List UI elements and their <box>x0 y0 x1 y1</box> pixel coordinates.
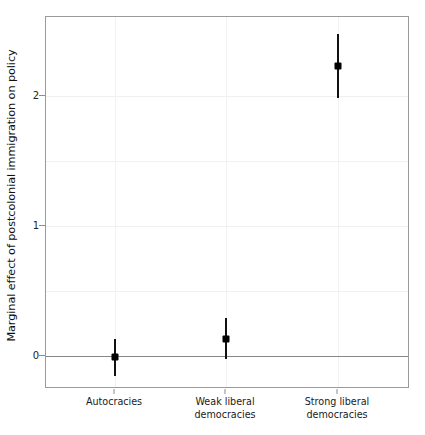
x-tick-label-strong-liberal-democracies: Strong liberal democracies <box>272 396 402 421</box>
y-axis-title-text: Marginal effect of postcolonial immigrat… <box>5 49 18 341</box>
y-tick-label-0: 0 <box>23 350 39 361</box>
x-tick-label-weak-liberal-democracies-line2: democracies <box>160 409 290 422</box>
x-tick-label-strong-liberal-democracies-line2: democracies <box>272 409 402 422</box>
point-autocracies <box>112 354 119 361</box>
zero-reference-line <box>46 356 408 357</box>
x-tick-label-weak-liberal-democracies-line1: Weak liberal <box>195 396 254 407</box>
chart-figure: Marginal effect of postcolonial immigrat… <box>0 0 425 435</box>
x-tick-label-autocracies-line1: Autocracies <box>86 396 142 407</box>
point-weak-liberal-democracies <box>223 336 230 343</box>
gridline-y-1-5 <box>46 226 408 227</box>
gridline-y-0-5-minor <box>46 291 408 292</box>
gridline-y-1-5-minor <box>46 161 408 162</box>
point-strong-liberal-democracies <box>335 63 342 70</box>
x-tick-mark-autocracies <box>114 389 115 394</box>
y-axis-tick-labels: 2 1 0 <box>22 0 39 435</box>
x-tick-label-strong-liberal-democracies-line1: Strong liberal <box>305 396 370 407</box>
gridline-y-2-5 <box>46 96 408 97</box>
x-tick-mark-weak-liberal-democracies <box>225 389 226 394</box>
gridline-x-autocracies <box>115 17 116 387</box>
y-tick-label-2: 2 <box>23 90 39 101</box>
y-axis-title: Marginal effect of postcolonial immigrat… <box>0 0 22 390</box>
x-tick-mark-strong-liberal-democracies <box>337 389 338 394</box>
y-tick-label-1: 1 <box>23 220 39 231</box>
plot-panel <box>45 16 409 388</box>
x-tick-label-weak-liberal-democracies: Weak liberal democracies <box>160 396 290 421</box>
